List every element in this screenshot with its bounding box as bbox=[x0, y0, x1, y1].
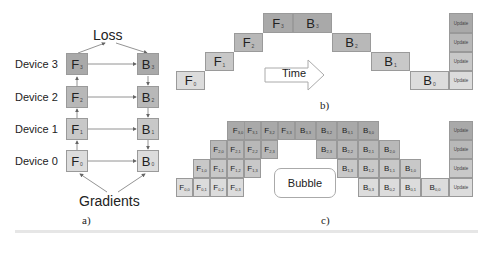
c-f-0-3: F0,3 bbox=[227, 178, 244, 197]
c-f-3-1: F3,1 bbox=[244, 121, 261, 140]
c-b-0-0: B0,0 bbox=[421, 178, 449, 197]
c-f-2-0: F2,0 bbox=[210, 140, 227, 159]
forward-box-device-1: F1 bbox=[66, 118, 88, 140]
b-forward-3: F3 bbox=[263, 13, 293, 33]
c-update-device-1: Update bbox=[449, 159, 473, 178]
forward-box-device-0: F0 bbox=[66, 150, 88, 172]
c-f-3-2: F3,2 bbox=[261, 121, 278, 140]
b-forward-0: F0 bbox=[176, 71, 205, 90]
c-f-2-1: F2,1 bbox=[227, 140, 244, 159]
c-f-1-2: F1,2 bbox=[227, 159, 244, 178]
c-b-0-2: B0,2 bbox=[379, 178, 400, 197]
backward-box-device-0: B0 bbox=[137, 150, 159, 172]
b-forward-2: F2 bbox=[234, 33, 263, 52]
caption-b: b) bbox=[320, 99, 329, 111]
c-b-0-1: B0,1 bbox=[400, 178, 421, 197]
c-f-1-1: F1,1 bbox=[210, 159, 227, 178]
c-b-3-0: B3,0 bbox=[358, 121, 379, 140]
c-b-1-0: B1,0 bbox=[400, 159, 421, 178]
c-f-1-0: F1,0 bbox=[193, 159, 210, 178]
c-b-1-1: B1,1 bbox=[379, 159, 400, 178]
c-b-3-2: B3,2 bbox=[316, 121, 337, 140]
c-b-3-1: B3,1 bbox=[337, 121, 358, 140]
c-f-0-1: F0,1 bbox=[193, 178, 210, 197]
device-1-label: Device 1 bbox=[15, 123, 58, 135]
backward-box-device-3: B3 bbox=[137, 53, 159, 75]
divider bbox=[15, 230, 478, 233]
c-b-0-3: B0,3 bbox=[358, 178, 379, 197]
device-2-label: Device 2 bbox=[15, 91, 58, 103]
c-update-device-3: Update bbox=[449, 121, 473, 140]
bubble-label: Bubble bbox=[274, 168, 336, 198]
c-f-0-0: F0,0 bbox=[176, 178, 193, 197]
caption-c: c) bbox=[321, 214, 330, 226]
c-f-3-3: F3,3 bbox=[278, 121, 295, 140]
b-update-device-2: Update bbox=[449, 33, 473, 52]
c-b-2-3: B2,3 bbox=[316, 140, 337, 159]
b-update-device-1: Update bbox=[449, 52, 473, 71]
c-f-0-2: F0,2 bbox=[210, 178, 227, 197]
c-b-2-1: B2,1 bbox=[358, 140, 379, 159]
time-label: Time bbox=[282, 67, 306, 79]
caption-a: a) bbox=[82, 214, 91, 226]
c-b-3-3: B3,3 bbox=[295, 121, 316, 140]
b-update-device-3: Update bbox=[449, 13, 473, 33]
c-f-2-3: F2,3 bbox=[261, 140, 278, 159]
c-b-1-2: B1,2 bbox=[358, 159, 379, 178]
c-b-2-0: B2,0 bbox=[379, 140, 400, 159]
backward-box-device-1: B1 bbox=[137, 118, 159, 140]
b-backward-3: B3 bbox=[293, 13, 332, 33]
device-3-label: Device 3 bbox=[15, 58, 58, 70]
c-b-1-3: B1,3 bbox=[337, 159, 358, 178]
b-backward-1: B1 bbox=[371, 52, 410, 71]
c-update-device-2: Update bbox=[449, 140, 473, 159]
backward-box-device-2: B2 bbox=[137, 86, 159, 108]
device-0-label: Device 0 bbox=[15, 155, 58, 167]
c-update-device-0: Update bbox=[449, 178, 473, 197]
c-f-2-2: F2,2 bbox=[244, 140, 261, 159]
b-backward-0: B0 bbox=[410, 71, 449, 90]
forward-box-device-3: F3 bbox=[66, 53, 88, 75]
c-f-1-3: F1,3 bbox=[244, 159, 261, 178]
forward-box-device-2: F2 bbox=[66, 86, 88, 108]
b-backward-2: B2 bbox=[332, 33, 371, 52]
b-forward-1: F1 bbox=[205, 52, 234, 71]
c-b-2-2: B2,2 bbox=[337, 140, 358, 159]
b-update-device-0: Update bbox=[449, 71, 473, 90]
gradients-label: Gradients bbox=[79, 193, 140, 209]
